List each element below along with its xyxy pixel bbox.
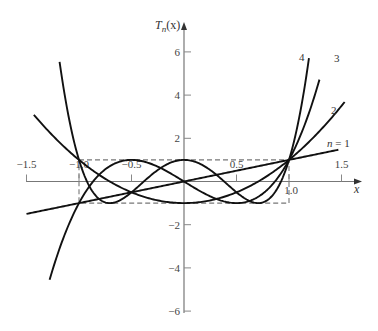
curve-label-n1: n = 1 [327,137,350,149]
y-axis-arrow-icon [181,22,187,30]
x-tick-label: −1.5 [17,158,37,170]
y-tick-label: 6 [175,46,181,58]
x-tick-label: 1.0 [284,184,298,196]
curve-label-n3: 3 [334,52,340,64]
y-tick-label: −4 [168,262,180,274]
curve-n2 [34,102,345,203]
y-axis-label: Tn(x) [155,18,180,34]
chebyshev-chart: −1.5−1.0−0.50.51.01.5642−2−4−6 Tn(x) x n… [0,0,378,331]
x-tick-label: 1.5 [335,158,349,170]
x-axis-label: x [353,182,360,196]
y-tick-label: 4 [175,89,181,101]
y-tick-label: −6 [168,305,180,317]
curve-label-n2: 2 [331,104,337,116]
curve-label-n4: 4 [299,51,305,63]
y-tick-label: 2 [175,132,181,144]
x-tick-label: 0.5 [230,158,244,170]
y-tick-label: −2 [168,219,180,231]
